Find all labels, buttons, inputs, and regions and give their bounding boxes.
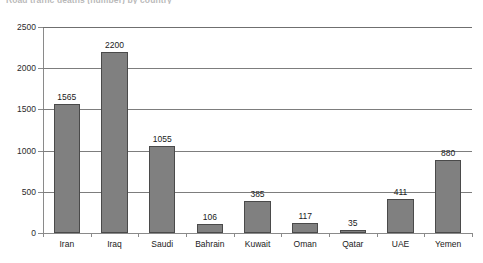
x-axis-category-label: Bahrain — [195, 239, 224, 249]
bar-value-label: 106 — [203, 212, 217, 222]
bar[interactable] — [244, 201, 270, 233]
bar[interactable] — [54, 104, 80, 233]
x-tick-mark — [424, 233, 425, 237]
x-tick-mark — [91, 233, 92, 237]
y-tick-mark — [38, 109, 43, 110]
bar[interactable] — [292, 223, 318, 233]
x-tick-mark — [329, 233, 330, 237]
y-tick-label: 1000 — [2, 146, 36, 156]
x-axis-category-label: Qatar — [342, 239, 363, 249]
x-axis-category-label: Iraq — [107, 239, 122, 249]
x-axis-category-label: Iran — [60, 239, 75, 249]
y-tick-label: 500 — [2, 187, 36, 197]
x-axis-category-label: Yemen — [435, 239, 461, 249]
x-tick-mark — [234, 233, 235, 237]
x-axis-category-label: Saudi — [151, 239, 173, 249]
y-tick-mark — [38, 151, 43, 152]
bar[interactable] — [435, 160, 461, 233]
bar-value-label: 385 — [250, 189, 264, 199]
x-axis-category-label: Oman — [294, 239, 317, 249]
x-tick-mark — [281, 233, 282, 237]
y-tick-label: 0 — [2, 228, 36, 238]
bar[interactable] — [197, 224, 223, 233]
y-tick-label: 2000 — [2, 63, 36, 73]
x-tick-mark — [472, 233, 473, 237]
bar[interactable] — [149, 146, 175, 233]
bar[interactable] — [387, 199, 413, 233]
x-tick-mark — [43, 233, 44, 237]
x-axis-category-label: Kuwait — [245, 239, 271, 249]
x-tick-mark — [138, 233, 139, 237]
bar-value-label: 1565 — [57, 92, 76, 102]
y-tick-mark — [38, 68, 43, 69]
y-tick-label: 1500 — [2, 104, 36, 114]
y-tick-mark — [38, 192, 43, 193]
bar-value-label: 411 — [394, 187, 408, 197]
y-tick-label: 2500 — [2, 22, 36, 32]
bar-value-label: 117 — [298, 211, 312, 221]
bar-chart: 05001000150020002500 1565Iran2200Iraq105… — [0, 0, 483, 263]
bar-value-label: 35 — [348, 218, 357, 228]
plot-area — [43, 27, 472, 233]
y-axis-labels: 05001000150020002500 — [0, 0, 36, 263]
x-axis-line — [43, 233, 473, 234]
x-axis-category-label: UAE — [392, 239, 409, 249]
x-tick-mark — [377, 233, 378, 237]
bar[interactable] — [340, 230, 366, 233]
bar-value-label: 2200 — [105, 40, 124, 50]
bar[interactable] — [101, 52, 127, 233]
bar-value-label: 1055 — [153, 134, 172, 144]
gridline — [43, 27, 472, 28]
x-tick-mark — [186, 233, 187, 237]
bar-value-label: 880 — [441, 148, 455, 158]
y-tick-mark — [38, 27, 43, 28]
